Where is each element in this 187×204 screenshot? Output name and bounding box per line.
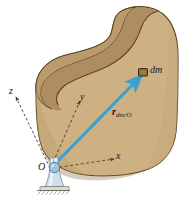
axis-label-z: z bbox=[9, 86, 13, 96]
origin-label-O: O bbox=[38, 162, 45, 172]
support-base-plate bbox=[40, 187, 69, 191]
axis-label-x: x bbox=[116, 151, 120, 161]
mass-element-marker bbox=[139, 69, 148, 77]
ground-hatching bbox=[38, 191, 69, 195]
support-ball-highlight bbox=[51, 164, 54, 167]
rigid-body-group bbox=[36, 7, 178, 181]
figure-canvas bbox=[0, 0, 187, 204]
axis-label-y: y bbox=[80, 92, 84, 102]
mass-element-label-dm: dm bbox=[150, 65, 162, 75]
position-vector-label: rdm/O bbox=[112, 107, 131, 119]
support-ball bbox=[49, 162, 59, 172]
vector-subscript: dm/O bbox=[116, 111, 132, 119]
mechanics-figure: z y x O dm rdm/O bbox=[0, 0, 187, 204]
